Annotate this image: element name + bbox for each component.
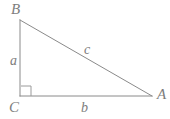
right-angle-marker-icon [21, 86, 31, 96]
vertex-label-a: A [157, 87, 166, 102]
side-label-b: b [81, 101, 88, 115]
vertex-label-b: B [11, 2, 20, 17]
vertex-label-c: C [9, 100, 19, 115]
right-triangle-figure: B C A a b c [0, 0, 170, 119]
side-c-hypotenuse-line [20, 20, 152, 96]
side-label-a: a [10, 54, 17, 68]
side-label-c: c [84, 43, 90, 57]
